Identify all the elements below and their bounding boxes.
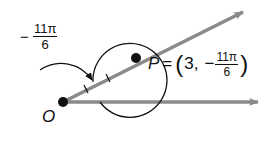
origin-point (58, 97, 68, 107)
equals-sign: = (162, 54, 172, 74)
angle-arc-arrow (40, 63, 92, 80)
angle-numerator: 11π (33, 22, 57, 37)
point-name: P (148, 54, 159, 74)
theta-sign: − (204, 54, 214, 74)
theta-numerator: 11π (215, 51, 238, 65)
point-r: 3, (184, 54, 198, 74)
point-label: P = ( 3, − 11π 6 ) (148, 50, 248, 78)
angle-denominator: 6 (42, 37, 49, 51)
open-paren: ( (175, 50, 183, 78)
angle-label: − 11π 6 (20, 22, 57, 51)
close-paren: ) (240, 50, 248, 78)
angle-sign: − (20, 28, 29, 45)
theta-denominator: 6 (223, 65, 230, 78)
origin-label: O (42, 107, 55, 127)
point-p (131, 53, 141, 63)
